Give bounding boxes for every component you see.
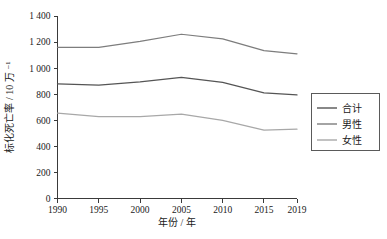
y-axis-ticks: [54, 16, 58, 199]
y-tick-label: 800: [36, 90, 51, 100]
y-axis-title: 标化死亡率 / 10 万 ⁻¹: [3, 61, 15, 152]
y-tick-label: 0: [46, 194, 51, 204]
x-tick-label: 2000: [131, 205, 150, 215]
y-tick-label: 1 200: [29, 37, 51, 47]
y-tick-label: 1 400: [29, 11, 51, 21]
x-tick-label: 1990: [48, 205, 67, 215]
x-axis-ticks: [58, 199, 298, 203]
x-axis-tick-labels: 1990199520002005201020152019: [48, 205, 307, 215]
y-tick-label: 600: [36, 116, 51, 126]
series-line-合计: [58, 77, 298, 95]
data-series-group: [58, 34, 298, 130]
y-tick-label: 200: [36, 168, 51, 178]
legend-label-男性: 男性: [342, 118, 362, 130]
axes-group: [58, 16, 298, 199]
y-axis-tick-labels: 02004006008001 0001 2001 400: [29, 11, 51, 204]
axis-lines: [58, 16, 298, 199]
x-tick-label: 2015: [254, 205, 273, 215]
y-tick-label: 400: [36, 142, 51, 152]
x-tick-label: 2005: [172, 205, 191, 215]
chart-figure: 02004006008001 0001 2001 400 19901995200…: [0, 0, 387, 239]
x-axis-title: 年份 / 年: [158, 216, 196, 228]
series-line-女性: [58, 113, 298, 130]
x-tick-label: 1995: [89, 205, 108, 215]
line-chart-canvas: 02004006008001 0001 2001 400 19901995200…: [0, 0, 387, 239]
x-tick-label: 2019: [288, 205, 307, 215]
series-line-男性: [58, 34, 298, 54]
legend-label-女性: 女性: [342, 134, 362, 146]
chart-legend: 合计男性女性: [312, 94, 380, 151]
y-tick-label: 1 000: [29, 64, 51, 74]
x-tick-label: 2010: [213, 205, 232, 215]
legend-label-合计: 合计: [342, 102, 362, 114]
